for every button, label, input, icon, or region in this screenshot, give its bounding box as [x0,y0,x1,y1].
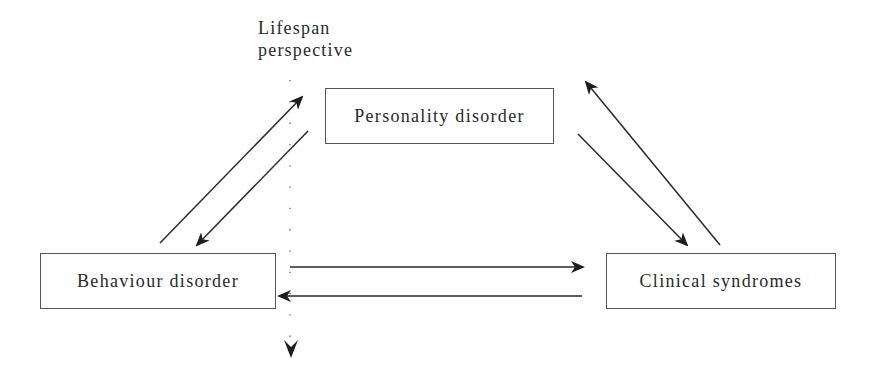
lifespan-axis-arrowhead-icon [284,340,298,358]
node-personality-disorder: Personality disorder [325,88,554,144]
edge-behaviour-to-personality [160,97,302,243]
edge-personality-to-clinical [578,134,687,245]
node-label: Personality disorder [354,106,524,127]
node-clinical-syndromes: Clinical syndromes [606,253,836,309]
arrows-layer [0,0,873,381]
node-label: Clinical syndromes [640,271,803,292]
node-behaviour-disorder: Behaviour disorder [40,253,276,309]
node-label: Behaviour disorder [77,271,239,292]
